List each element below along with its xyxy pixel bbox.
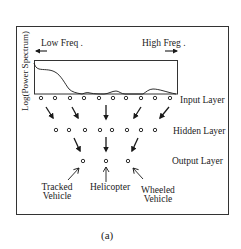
output-label-tracked-vehicle: Tracked Vehicle: [40, 183, 74, 201]
wheeled-label-line2: Vehicle: [140, 195, 176, 204]
input-to-hidden-arrows: [46, 105, 169, 119]
high-freq-label: High Freg .: [142, 38, 186, 48]
helicopter-label: Helicopter: [89, 183, 131, 192]
output-layer-label: Output Layer: [172, 156, 223, 166]
tracked-label-line2: Vehicle: [40, 192, 74, 201]
input-layer-nodes: [39, 96, 171, 99]
y-axis-label: Log(Power Spectrum): [20, 31, 30, 111]
figure-caption: (a): [101, 229, 113, 241]
output-label-arrows: [68, 167, 143, 182]
low-freq-label: Low Freq .: [41, 38, 83, 48]
hidden-to-output-arrows: [74, 137, 138, 151]
hidden-layer-nodes: [54, 128, 156, 131]
output-layer-nodes: [81, 159, 129, 162]
input-layer-label: Input Layer: [180, 95, 225, 105]
hidden-layer-label: Hidden Layer: [173, 126, 226, 136]
spectrum-curve: [34, 63, 176, 94]
output-label-helicopter: Helicopter: [89, 183, 131, 192]
neural-network-diagram: Log(Power Spectrum) Low Freq . High Freg…: [0, 0, 241, 249]
output-label-wheeled-vehicle: Wheeled Vehicle: [140, 186, 176, 204]
